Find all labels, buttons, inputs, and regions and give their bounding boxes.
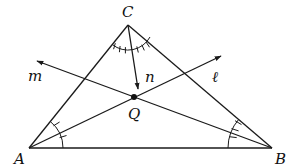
ray-l [29,56,221,148]
angle-mark-A [50,122,66,149]
label-C: C [122,3,134,21]
side-AC [29,25,128,148]
label-B: B [274,150,286,166]
label-l: ℓ [212,68,218,86]
label-m: m [28,67,42,85]
label-Q: Q [128,105,140,123]
label-A: A [12,150,25,166]
label-n: n [145,68,155,86]
side-BC [128,25,272,148]
triangle-diagram: C A B Q m ℓ n [0,0,296,166]
ray-n [128,25,138,89]
point-Q [131,94,137,100]
